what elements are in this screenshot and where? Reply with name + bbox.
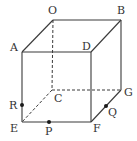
label-P: P [45,125,53,138]
edge-BD [91,20,121,52]
label-C: C [54,92,62,105]
point-R-dot [20,103,24,107]
label-O: O [48,4,57,17]
label-D: D [82,40,91,53]
edge-OA [22,20,53,52]
label-E: E [10,122,18,135]
label-B: B [117,4,125,17]
point-P-dot [47,120,51,124]
cube-diagram: O B A D C G E F R P Q [0,0,137,141]
label-Q: Q [108,106,117,119]
label-F: F [93,122,101,135]
label-G: G [124,86,133,99]
label-R: R [9,99,18,112]
edge-OC-hidden [52,20,53,90]
edge-CE-hidden [22,90,52,122]
label-A: A [9,41,19,54]
